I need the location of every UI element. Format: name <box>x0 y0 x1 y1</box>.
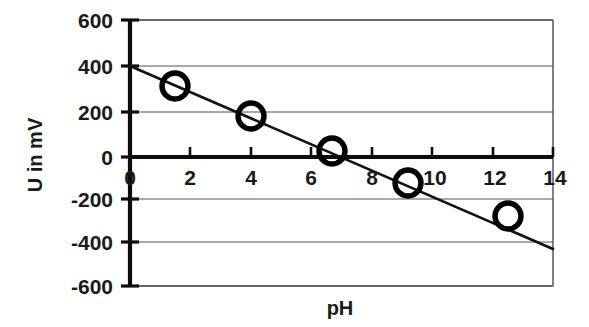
x-tick-label-12: 12 <box>483 166 506 189</box>
y-tick-label-400: 400 <box>78 55 113 78</box>
y-tick-label-neg200: -200 <box>71 188 113 211</box>
y-tick-label-0: 0 <box>101 146 113 169</box>
x-tick-label-14: 14 <box>543 166 567 189</box>
data-point <box>238 103 264 129</box>
x-tick-label-8: 8 <box>366 166 378 189</box>
data-point <box>495 203 521 229</box>
gridlines-horizontal <box>130 20 553 286</box>
x-tick-label-2: 2 <box>184 166 196 189</box>
x-tick-label-6: 6 <box>305 166 317 189</box>
x-tick-label-0: 0 <box>124 166 136 189</box>
x-axis-tick-labels: 0 2 4 6 8 10 12 14 <box>124 166 567 189</box>
y-axis-tick-labels: 600 400 200 0 -200 -400 -600 <box>71 9 113 298</box>
y-tick-label-neg400: -400 <box>71 231 113 254</box>
chart-plot-area: 600 400 200 0 -200 -400 -600 0 2 4 6 8 1… <box>0 0 589 327</box>
x-tick-label-10: 10 <box>423 166 446 189</box>
data-point <box>319 138 345 164</box>
data-points <box>162 73 521 229</box>
chart-figure: 600 400 200 0 -200 -400 -600 0 2 4 6 8 1… <box>0 0 589 327</box>
x-axis-title: pH <box>327 297 354 319</box>
plot-frame <box>130 20 553 286</box>
x-tick-label-4: 4 <box>245 166 257 189</box>
y-axis-title: U in mV <box>24 117 46 192</box>
y-tick-label-600: 600 <box>78 9 113 32</box>
y-tick-label-200: 200 <box>78 101 113 124</box>
y-tick-label-neg600: -600 <box>71 275 113 298</box>
